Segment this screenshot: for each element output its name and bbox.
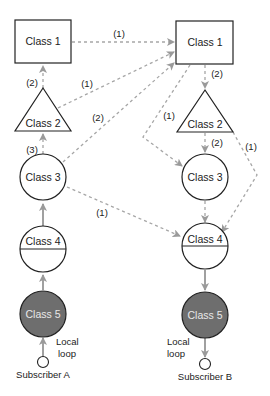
subscriber-b-label: Subscriber B — [178, 371, 232, 382]
left-class2-label: Class 2 — [25, 117, 60, 129]
right-class1-label: Class 1 — [187, 36, 222, 48]
subscriber-a-label: Subscriber A — [16, 369, 71, 380]
right-class4-label: Class 4 — [187, 233, 222, 245]
right-hierarchy: Class 1 Class 2 Class 3 Class 4 Class 5 … — [167, 21, 233, 382]
right-class2-label: Class 2 — [187, 118, 222, 130]
label-r1-r3: (1) — [163, 110, 175, 121]
label-l2-r1: (1) — [81, 78, 93, 89]
left-local-loop-label-2: loop — [58, 348, 76, 359]
left-hierarchy: Class 1 Class 2 Class 3 Class 4 Class 5 … — [15, 20, 79, 380]
left-class5-label: Class 5 — [25, 308, 60, 320]
route-l2-r1 — [58, 52, 174, 108]
label-l2-l1: (2) — [26, 77, 38, 88]
solid-links — [43, 204, 205, 357]
left-class4-label: Class 4 — [25, 235, 60, 247]
subscriber-a-node[interactable] — [38, 357, 49, 368]
route-l3-r4 — [67, 187, 180, 236]
label-r1-r2: (2) — [211, 68, 223, 79]
dashed-routes — [43, 42, 257, 236]
left-class3-label: Class 3 — [25, 171, 60, 183]
label-l1-r1: (1) — [113, 28, 125, 39]
label-l3-r1: (2) — [92, 112, 104, 123]
left-local-loop-label-1: Local — [56, 336, 79, 347]
network-hierarchy-diagram: Class 1 Class 2 Class 3 Class 4 Class 5 … — [0, 0, 270, 396]
right-local-loop-label-1: Local — [167, 336, 190, 347]
label-r2-r4: (1) — [245, 141, 257, 152]
subscriber-b-node[interactable] — [200, 359, 211, 370]
label-l3-r4: (1) — [96, 207, 108, 218]
right-local-loop-label-2: loop — [167, 348, 185, 359]
right-class5-label: Class 5 — [187, 309, 222, 321]
right-class3-label: Class 3 — [187, 171, 222, 183]
label-r2-r3: (2) — [211, 137, 223, 148]
left-class1-label: Class 1 — [25, 35, 60, 47]
label-l3-l2: (3) — [26, 144, 38, 155]
